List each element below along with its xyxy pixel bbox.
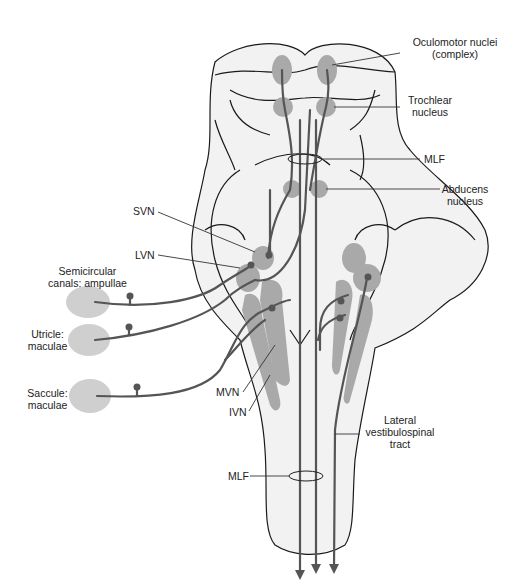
label-line: nucleus	[430, 195, 500, 207]
label-lateral-vestibulospinal-tract: Lateral vestibulospinal tract	[360, 414, 440, 450]
descending-arrows	[295, 564, 339, 580]
label-line: maculae	[25, 399, 70, 411]
label-line: Saccule:	[25, 387, 70, 399]
brainstem-diagram	[0, 0, 508, 586]
label-semicircular-canals: Semicircular canals: ampullae	[40, 265, 135, 289]
label-line: nucleus	[395, 106, 465, 118]
label-mlf-top: MLF	[424, 153, 445, 165]
label-ivn: IVN	[229, 406, 247, 418]
label-trochlear-nucleus: Trochlear nucleus	[395, 94, 465, 118]
label-line: tract	[360, 438, 440, 450]
label-line: Semicircular	[40, 265, 135, 277]
label-utricle: Utricle: maculae	[25, 328, 70, 352]
label-abducens-nucleus: Abducens nucleus	[430, 183, 500, 207]
label-lvn: LVN	[135, 249, 155, 261]
vestibular-receptors	[66, 286, 111, 413]
label-line: Trochlear	[395, 94, 465, 106]
label-mvn: MVN	[216, 386, 239, 398]
label-line: (complex)	[395, 48, 508, 60]
label-line: Abducens	[430, 183, 500, 195]
label-line: vestibulospinal	[360, 426, 440, 438]
label-line: maculae	[25, 340, 70, 352]
label-oculomotor-nuclei: Oculomotor nuclei (complex)	[395, 36, 508, 60]
label-mlf-bottom: MLF	[228, 470, 249, 482]
label-svn: SVN	[133, 205, 155, 217]
label-line: Lateral	[360, 414, 440, 426]
label-line: Oculomotor nuclei	[395, 36, 508, 48]
label-line: Utricle:	[25, 328, 70, 340]
label-saccule: Saccule: maculae	[25, 387, 70, 411]
label-line: canals: ampullae	[40, 277, 135, 289]
